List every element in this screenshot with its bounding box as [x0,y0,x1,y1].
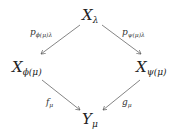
node-right: Xψ(μ) [136,60,167,77]
node-left-sub: ϕ(μ) [23,67,42,77]
edge-left-bottom-sub: μ [49,101,53,108]
node-left: Xϕ(μ) [12,60,42,77]
node-bottom-base: Y [82,110,92,128]
edge-label-left-bottom: fμ [46,98,53,108]
edge-right-bottom-sub: μ [128,101,132,108]
edge-top-right-sub: ψ(μ)λ [128,31,145,38]
edge-top-left-sub: ϕ(μ)λ [36,31,52,38]
edge-label-right-bottom: gμ [122,98,132,108]
node-left-base: X [12,58,23,76]
edge-label-top-right: pψ(μ)λ [122,28,145,38]
node-right-sub: ψ(μ) [147,67,167,77]
node-bottom: Yμ [82,112,98,129]
edge-label-top-left: pϕ(μ)λ [30,28,52,38]
node-top-base: X [82,6,93,24]
node-top-sub: λ [93,15,99,25]
node-top: Xλ [82,8,98,25]
node-right-base: X [136,58,147,76]
node-bottom-sub: μ [92,119,98,129]
